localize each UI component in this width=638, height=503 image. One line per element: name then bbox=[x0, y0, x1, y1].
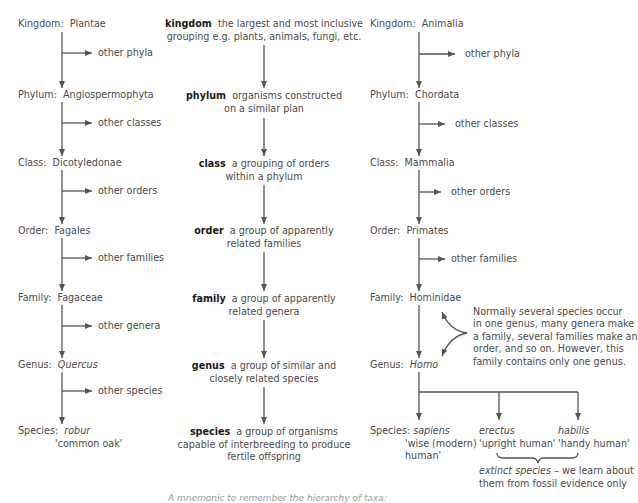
animal-rank-class: Class: Mammalia bbox=[370, 157, 455, 168]
plant-branch-label: other species bbox=[98, 385, 162, 396]
rank-value: Fagaceae bbox=[58, 292, 103, 303]
definition-term: kingdom bbox=[165, 18, 212, 29]
species-sapiens-common: 'wise (modern) human' bbox=[405, 438, 477, 463]
genus-note: Normally several species occur in one ge… bbox=[473, 306, 638, 368]
definition-text: organisms constructed bbox=[232, 90, 342, 101]
rank-value: Plantae bbox=[70, 18, 106, 29]
definition-text: a group of organisms bbox=[236, 426, 338, 437]
rank-value: Fagales bbox=[54, 225, 90, 236]
extinct-label: extinct species bbox=[479, 465, 551, 476]
definition-text: related genera bbox=[229, 306, 300, 317]
species-name: sapiens bbox=[413, 425, 450, 436]
species-habilis-common: 'handy human' bbox=[558, 438, 630, 449]
definition-term: genus bbox=[192, 360, 225, 371]
definition-text: related families bbox=[227, 238, 301, 249]
definition-family: family a group of apparently related gen… bbox=[164, 293, 364, 318]
rank-label: Species: bbox=[370, 425, 410, 436]
definition-text: closely related species bbox=[210, 373, 319, 384]
rank-value: Hominidae bbox=[410, 292, 462, 303]
definition-term: phylum bbox=[186, 90, 226, 101]
animal-rank-order: Order: Primates bbox=[370, 225, 449, 236]
definition-term: order bbox=[194, 225, 223, 236]
animal-rank-family: Family: Hominidae bbox=[370, 292, 461, 303]
plant-rank-class: Class: Dicotyledonae bbox=[18, 157, 122, 168]
definition-species: species a group of organisms capable of … bbox=[164, 426, 364, 464]
animal-branch-label: other orders bbox=[451, 186, 510, 197]
rank-value: Angiospermophyta bbox=[63, 89, 154, 100]
rank-value: Dicotyledonae bbox=[53, 157, 122, 168]
definition-text: a grouping of orders bbox=[232, 158, 330, 169]
plant-rank-order: Order: Fagales bbox=[18, 225, 91, 236]
definition-text: fertile offspring bbox=[227, 451, 301, 462]
rank-label: Kingdom: bbox=[370, 18, 416, 29]
note-line: family contains only one genus. bbox=[473, 356, 638, 368]
definition-text: a group of apparently bbox=[230, 225, 334, 236]
plant-rank-species: Species: robur bbox=[18, 425, 90, 436]
definition-order: order a group of apparently related fami… bbox=[164, 225, 364, 250]
animal-rank-kingdom: Kingdom: Animalia bbox=[370, 18, 464, 29]
rank-value: Chordata bbox=[415, 89, 459, 100]
rank-label: Kingdom: bbox=[18, 18, 64, 29]
animal-rank-genus: Genus: Homo bbox=[370, 359, 438, 370]
rank-label: Class: bbox=[370, 157, 398, 168]
rank-value: robur bbox=[64, 425, 90, 436]
rank-value: Mammalia bbox=[405, 157, 455, 168]
rank-label: Phylum: bbox=[370, 89, 409, 100]
rank-label: Family: bbox=[370, 292, 403, 303]
plant-branch-label: other genera bbox=[98, 320, 160, 331]
rank-label: Order: bbox=[18, 225, 48, 236]
rank-value: Animalia bbox=[422, 18, 464, 29]
animal-branch-label: other families bbox=[451, 253, 517, 264]
species-habilis-name: habilis bbox=[558, 425, 589, 436]
definition-term: family bbox=[192, 293, 225, 304]
rank-label: Species: bbox=[18, 425, 58, 436]
rank-label: Family: bbox=[18, 292, 51, 303]
animal-branch-label: other phyla bbox=[465, 48, 520, 59]
definition-text: the largest and most inclusive bbox=[218, 18, 363, 29]
extinct-text: them from fossil evidence only bbox=[479, 478, 634, 491]
note-line: a family, several families make an bbox=[473, 331, 638, 343]
note-line: in one genus, many genera make bbox=[473, 318, 638, 330]
animal-branch-label: other classes bbox=[455, 118, 518, 129]
note-line: order, and so on. However, this bbox=[473, 343, 638, 355]
rank-label: Order: bbox=[370, 225, 400, 236]
definition-text: within a phylum bbox=[225, 171, 302, 182]
note-line: Normally several species occur bbox=[473, 306, 638, 318]
animal-rank-species: Species: sapiens bbox=[370, 425, 450, 436]
definition-text: on a similar plan bbox=[224, 103, 304, 114]
common-name: 'wise (modern) bbox=[405, 438, 477, 450]
rank-value: Homo bbox=[410, 359, 438, 370]
species-erectus-name: erectus bbox=[479, 425, 515, 436]
plant-branch-label: other orders bbox=[98, 185, 157, 196]
definition-phylum: phylum organisms constructed on a simila… bbox=[164, 90, 364, 115]
common-name: human' bbox=[405, 450, 477, 462]
plant-branch-label: other families bbox=[98, 252, 164, 263]
animal-rank-phylum: Phylum: Chordata bbox=[370, 89, 459, 100]
plant-rank-family: Family: Fagaceae bbox=[18, 292, 103, 303]
plant-rank-kingdom: Kingdom: Plantae bbox=[18, 18, 106, 29]
rank-label: Genus: bbox=[18, 359, 52, 370]
rank-label: Class: bbox=[18, 157, 46, 168]
mnemonic-caption: A mnemonic to remember the hierarchy of … bbox=[168, 493, 387, 503]
rank-label: Genus: bbox=[370, 359, 404, 370]
plant-branch-label: other phyla bbox=[98, 47, 153, 58]
definition-text: a group of similar and bbox=[231, 360, 336, 371]
definition-kingdom: kingdom the largest and most inclusive g… bbox=[164, 18, 364, 43]
rank-label: Phylum: bbox=[18, 89, 57, 100]
definition-class: class a grouping of orders within a phyl… bbox=[164, 158, 364, 183]
definition-text: grouping e.g. plants, animals, fungi, et… bbox=[167, 31, 361, 42]
plant-rank-phylum: Phylum: Angiospermophyta bbox=[18, 89, 154, 100]
plant-common-name: 'common oak' bbox=[55, 438, 122, 449]
plant-rank-genus: Genus: Quercus bbox=[18, 359, 98, 370]
definition-term: species bbox=[190, 426, 230, 437]
definition-genus: genus a group of similar and closely rel… bbox=[164, 360, 364, 385]
definition-text: a group of apparently bbox=[232, 293, 336, 304]
plant-branch-label: other classes bbox=[98, 117, 161, 128]
definition-text: capable of interbreeding to produce bbox=[178, 439, 351, 450]
definition-term: class bbox=[199, 158, 226, 169]
species-erectus-common: 'upright human' bbox=[479, 438, 556, 449]
rank-value: Quercus bbox=[58, 359, 98, 370]
extinct-text: – we learn about bbox=[551, 465, 634, 476]
extinct-species-note: extinct species – we learn about them fr… bbox=[479, 465, 634, 491]
rank-value: Primates bbox=[406, 225, 448, 236]
